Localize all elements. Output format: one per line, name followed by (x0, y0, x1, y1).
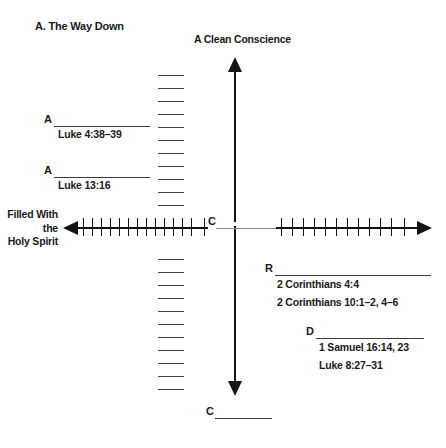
ladder-dash (158, 127, 184, 128)
worksheet-diagram: A. The Way Down A Clean Conscience C Fil… (0, 0, 446, 448)
axis-tick (110, 218, 111, 236)
ladder-dash (158, 205, 184, 206)
blank-rule-lower-right-1[interactable] (275, 275, 431, 276)
axis-tick (336, 218, 337, 236)
axis-tick (173, 218, 174, 236)
axis-tick (292, 218, 293, 236)
ladder-dash (158, 350, 184, 351)
reference-lower-right-2-a: 1 Samuel 16:14, 23 (319, 341, 409, 353)
ladder-dash (158, 324, 184, 325)
ladder-dash (158, 75, 184, 76)
axis-tick (325, 218, 326, 236)
axis-tick (314, 218, 315, 236)
ladder-dash (158, 337, 184, 338)
left-label-line-2: the (43, 222, 58, 234)
ladder-dash (158, 114, 184, 115)
axis-tick (155, 218, 156, 236)
axis-tick (101, 218, 102, 236)
horizontal-axis-left-label: Filled With the Holy Spirit (0, 208, 58, 249)
ladder-dash (158, 389, 184, 390)
axis-tick (92, 218, 93, 236)
vertical-axis-lower (234, 226, 236, 383)
axis-tick (146, 218, 147, 236)
blank-rule-lower-right-2[interactable] (316, 338, 424, 339)
reference-upper-left-2-a: Luke 13:16 (58, 179, 110, 191)
ladder-dash (158, 311, 184, 312)
ladder-dash (158, 259, 184, 260)
reference-lower-right-2-b: Luke 8:27–31 (319, 359, 383, 371)
blank-letter-lower-right-2: D (306, 325, 314, 337)
arrow-down-icon (228, 381, 242, 396)
axis-tick (182, 218, 183, 236)
blank-rule-upper-left-2[interactable] (54, 177, 150, 178)
ladder-dash (158, 272, 184, 273)
center-blank-rule[interactable] (216, 228, 278, 229)
ladder-dash (158, 88, 184, 89)
ladder-dash (158, 192, 184, 193)
blank-rule-upper-left-1[interactable] (54, 126, 150, 127)
ladder-dash (158, 376, 184, 377)
axis-tick (380, 218, 381, 236)
blank-letter-upper-left-2: A (44, 164, 52, 176)
ladder-dash (158, 179, 184, 180)
ladder-dash (158, 153, 184, 154)
left-label-line-1: Filled With (7, 208, 58, 220)
ladder-dash (158, 285, 184, 286)
axis-tick (204, 218, 205, 236)
axis-tick (404, 218, 405, 236)
arrow-right-icon (417, 221, 432, 235)
axis-tick (369, 218, 370, 236)
axis-tick (128, 218, 129, 236)
axis-tick (83, 218, 84, 236)
axis-tick (281, 218, 282, 236)
axis-tick (347, 218, 348, 236)
vertical-axis-top-label: A Clean Conscience (194, 33, 291, 45)
ladder-dash (158, 298, 184, 299)
axis-tick (358, 218, 359, 236)
reference-lower-right-1-b: 2 Corinthians 10:1–2, 4–6 (277, 296, 398, 308)
bottom-blank-letter: C (206, 405, 214, 417)
reference-lower-right-1-a: 2 Corinthians 4:4 (277, 278, 359, 290)
page-title: A. The Way Down (35, 20, 124, 32)
axis-tick (303, 218, 304, 236)
reference-upper-left-1-a: Luke 4:38–39 (58, 128, 122, 140)
bottom-blank-rule[interactable] (215, 418, 272, 419)
left-label-line-3: Holy Spirit (8, 235, 58, 247)
arrow-left-icon (63, 221, 78, 235)
axis-tick (119, 218, 120, 236)
axis-tick (137, 218, 138, 236)
horizontal-axis-left (77, 227, 208, 229)
ladder-dash (158, 101, 184, 102)
axis-tick (191, 218, 192, 236)
ladder-dash (158, 166, 184, 167)
center-blank-letter: C (208, 215, 216, 227)
axis-tick (164, 218, 165, 236)
ladder-dash (158, 140, 184, 141)
axis-tick (391, 218, 392, 236)
vertical-axis-upper (234, 70, 236, 222)
blank-letter-upper-left-1: A (44, 113, 52, 125)
blank-letter-lower-right-1: R (265, 262, 273, 274)
ladder-dash (158, 363, 184, 364)
